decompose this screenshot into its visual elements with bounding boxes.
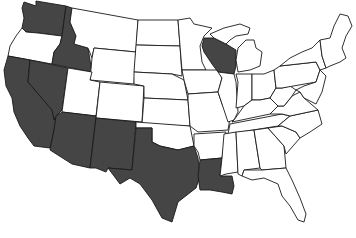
state-florida xyxy=(242,168,306,222)
state-wisconsin xyxy=(202,38,236,74)
state-arkansas xyxy=(194,132,226,160)
state-iowa xyxy=(182,70,222,94)
state-kansas xyxy=(142,98,190,126)
us-map xyxy=(0,0,356,238)
state-new-mexico xyxy=(90,118,136,172)
state-north-dakota xyxy=(136,20,180,46)
state-colorado xyxy=(96,82,144,122)
state-arizona xyxy=(50,112,96,168)
state-south-dakota xyxy=(134,45,182,76)
state-new-england xyxy=(320,14,352,68)
state-washington xyxy=(22,1,66,36)
state-wyoming xyxy=(90,48,136,84)
state-michigan-lower xyxy=(236,40,262,72)
